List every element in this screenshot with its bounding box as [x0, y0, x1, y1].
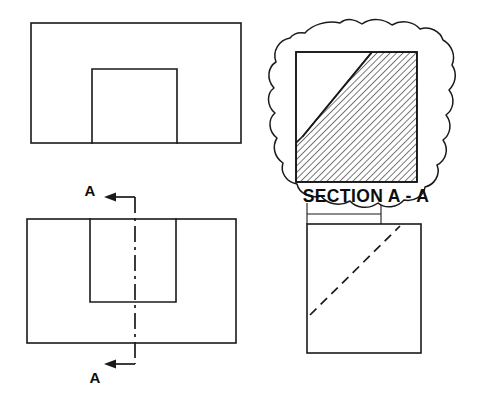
cutting-plane-top-arrowhead	[104, 193, 116, 202]
cut-mark-label-top: A	[85, 182, 96, 199]
section-a-a-detail: SECTION A - A	[269, 20, 456, 208]
drawing-canvas: A A SECTION A - A	[0, 0, 482, 404]
side-view	[307, 224, 421, 353]
front-view-outer-rectangle	[27, 219, 236, 343]
side-view-outer-rectangle	[307, 224, 421, 353]
front-view	[27, 219, 236, 343]
engineering-drawing-sheet: A A SECTION A - A	[0, 0, 482, 404]
top-view	[31, 23, 241, 143]
section-title-label: SECTION A - A	[303, 186, 430, 206]
top-view-outer-rectangle	[31, 23, 241, 143]
cutting-plane-bottom-arrowhead	[104, 360, 116, 369]
cut-mark-label-bottom: A	[90, 369, 101, 386]
